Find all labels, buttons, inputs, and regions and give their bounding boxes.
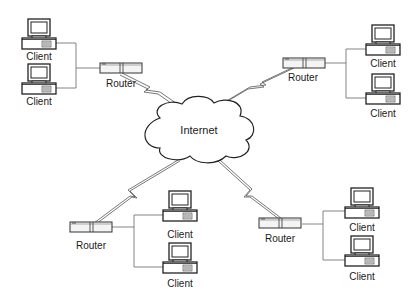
router-label: Router — [106, 78, 137, 89]
client-computer-icon[interactable] — [163, 243, 197, 273]
client-computer-icon[interactable] — [163, 191, 197, 221]
client-computer-icon[interactable] — [345, 188, 379, 218]
router-icon[interactable] — [259, 218, 301, 228]
wan-link-bottom-right — [218, 160, 281, 219]
client-computer-icon[interactable] — [366, 74, 400, 104]
client-label: Client — [370, 108, 396, 119]
cloud-label: Internet — [180, 124, 217, 136]
router-label: Router — [76, 240, 107, 251]
network-diagram: Internet Client Client Router Router Cli… — [0, 0, 412, 301]
router-icon[interactable] — [70, 222, 112, 232]
client-label: Client — [349, 271, 375, 282]
router-icon[interactable] — [283, 58, 325, 68]
client-label: Client — [26, 51, 52, 62]
client-label: Client — [167, 229, 193, 240]
client-computer-icon[interactable] — [22, 19, 56, 49]
client-label: Client — [26, 96, 52, 107]
site-bottom-left: Router Client Client — [70, 191, 197, 289]
client-computer-icon[interactable] — [345, 236, 379, 266]
client-computer-icon[interactable] — [22, 64, 56, 94]
router-label: Router — [265, 233, 296, 244]
site-top-left: Client Client Router — [22, 19, 142, 107]
site-top-right: Router Client Client — [283, 25, 400, 119]
internet-cloud: Internet — [145, 96, 254, 162]
site-bottom-right: Router Client Client — [259, 188, 379, 282]
client-computer-icon[interactable] — [366, 25, 400, 55]
router-icon[interactable] — [100, 63, 142, 73]
router-label: Router — [288, 72, 319, 83]
client-label: Client — [167, 278, 193, 289]
client-label: Client — [370, 58, 396, 69]
client-label: Client — [349, 222, 375, 233]
